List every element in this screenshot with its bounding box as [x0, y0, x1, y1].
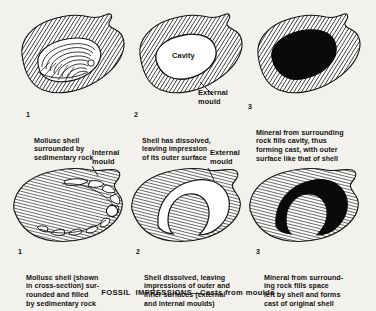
top-panel-1-number: 1: [26, 111, 30, 120]
top-panel-3-caption: 3 Mineral from surrounding rock fills ca…: [248, 103, 372, 180]
top-panel-1-artwork: [22, 14, 124, 93]
top-panel-2-leader-label: External mould: [198, 89, 228, 106]
bottom-panel-2-number: 2: [136, 248, 140, 257]
fossil-impressions-figure: External mould Cavity 1 Mollusc shell su…: [0, 0, 376, 311]
top-panel-3-artwork: [258, 14, 360, 93]
bottom-panel-1-caption: 1 Mollusc shell (shown in cross-section)…: [18, 248, 130, 311]
top-panel-3-number: 3: [248, 103, 252, 112]
top-panel-3-caption-text: Mineral from surrounding rock fills cavi…: [256, 129, 372, 163]
bottom-panel-2-caption: 2 Shell dissolved, leaving impressions o…: [136, 248, 252, 311]
bottom-panel-1-leader-label: Internal mould: [92, 149, 120, 166]
bottom-panel-2-leader-label: External mould: [210, 149, 240, 166]
bottom-panel-1-number: 1: [18, 248, 22, 257]
figure-title: FOSSIL IMPRESSIONS—Casts from moulds: [0, 288, 376, 297]
bottom-panel-3-number: 3: [256, 248, 260, 257]
top-panel-1-caption: 1 Mollusc shell surrounded by sedimentar…: [26, 111, 126, 180]
top-panel-2-caption: 2 Shell has dissolved, leaving impressio…: [134, 111, 238, 180]
top-panel-2-number: 2: [134, 111, 138, 120]
top-panel-2-inner-label: Cavity: [172, 52, 195, 61]
bottom-panel-3-caption: 3 Mineral from surround- ing rock fills …: [256, 248, 372, 311]
